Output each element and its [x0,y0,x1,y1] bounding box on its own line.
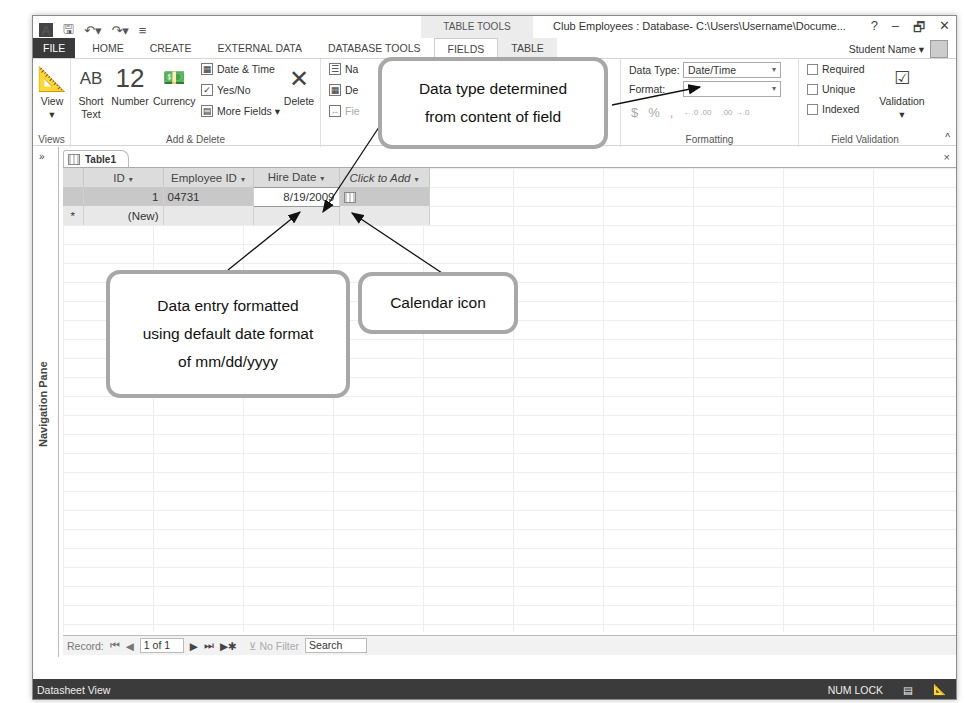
new-row-label[interactable]: (New) [83,206,163,225]
header-row: ID▾ Employee ID▾ Hire Date▾ Click to Add… [63,168,429,187]
more-fields-button[interactable]: ▤ More Fields ▾ [201,105,280,117]
name-caption-icon: ☰ [329,63,341,75]
column-header-employee-id[interactable]: Employee ID▾ [163,168,253,187]
chevron-down-icon[interactable]: ▾ [129,175,133,184]
close-document-icon[interactable]: × [944,151,950,163]
view-button[interactable]: 📐 View ▾ [37,63,67,121]
decrease-decimals-button[interactable]: .00 →.0 [721,108,749,117]
comma-format-button[interactable]: , [670,105,674,120]
more-fields-icon: ▤ [201,105,213,117]
datasheet-view-icon[interactable]: ▤ [903,684,913,696]
tab-external-data[interactable]: EXTERNAL DATA [205,38,315,58]
callout-data-type: Data type determined from content of fie… [378,57,608,149]
default-value-icon: ▦ [329,84,341,96]
new-record-row: * (New) [63,206,429,225]
new-record-button[interactable]: ▶✱ [220,640,237,652]
new-row-marker[interactable]: * [63,206,83,225]
tab-create[interactable]: CREATE [137,38,205,58]
tab-fields[interactable]: FIELDS [434,38,499,58]
redo-icon[interactable]: ↷▾ [111,23,128,38]
validation-button[interactable]: ☑ Validation ▾ [877,63,927,121]
calendar-icon[interactable] [344,192,356,203]
short-text-button[interactable]: AB Short Text [77,63,105,121]
filter-icon: ⊻ [249,640,257,652]
navigation-pane-label[interactable]: Navigation Pane [37,361,49,447]
window-controls: ? – 🗗 ✕ [871,18,950,40]
add-delete-group: AB Short Text 12 Number 💵 Currency ▦ Dat… [71,59,321,147]
tab-table1[interactable]: Table1 [63,150,129,167]
last-record-button[interactable]: ⏭ [204,639,214,652]
field-size-button[interactable]: ↔ Fie [329,105,360,117]
new-cell-click-to-add[interactable] [339,206,429,225]
required-checkbox[interactable]: Required [807,63,865,75]
previous-record-button[interactable]: ◀ [126,640,134,652]
next-record-button[interactable]: ▶ [190,640,198,652]
currency-format-button[interactable]: $ [631,105,638,120]
cell-hire-date[interactable]: 8/19/2009 [253,187,339,206]
tab-table[interactable]: TABLE [498,38,556,58]
default-value-button[interactable]: ▦ De [329,84,358,96]
new-cell-employee-id[interactable] [163,206,253,225]
help-icon[interactable]: ? [871,18,878,40]
column-header-click-to-add[interactable]: Click to Add▾ [339,168,429,187]
date-time-button[interactable]: ▦ Date & Time [201,63,275,75]
search-input[interactable]: Search [305,638,367,653]
table-icon [68,154,80,165]
increase-decimals-button[interactable]: ←.0 .00 [683,108,711,117]
first-record-button[interactable]: ⏮ [110,639,120,652]
indexed-checkbox[interactable]: Indexed [807,103,859,115]
views-group: 📐 View ▾ Views [33,59,71,147]
tab-file[interactable]: FILE [33,38,75,58]
cell-id[interactable]: 1 [83,187,163,206]
cell-click-to-add[interactable] [339,187,429,206]
chevron-down-icon[interactable]: ▾ [241,175,245,184]
column-header-hire-date[interactable]: Hire Date▾ [253,168,339,187]
current-record-input[interactable]: 1 of 1 [140,638,184,653]
number-button[interactable]: 12 Number [109,63,151,108]
access-logo-icon[interactable]: A [39,23,53,37]
design-view-icon[interactable]: 📐 [933,683,946,696]
minimize-icon[interactable]: – [892,18,899,40]
row-selector[interactable] [63,187,83,206]
tab-home[interactable]: HOME [79,38,137,58]
percent-format-button[interactable]: % [648,105,660,120]
delete-button[interactable]: ✕ Delete [281,63,317,108]
yes-no-button[interactable]: ✓ Yes/No [201,84,250,96]
chevron-down-icon[interactable]: ▾ [320,174,324,183]
close-icon[interactable]: ✕ [939,18,950,40]
restore-icon[interactable]: 🗗 [913,18,925,40]
customize-qat-icon[interactable]: ≡ [139,23,147,38]
validation-icon: ☑ [877,63,927,93]
name-caption-button[interactable]: ☰ Na [329,63,358,75]
callout-calendar-icon: Calendar icon [358,272,518,334]
user-name[interactable]: Student Name ▾ [849,43,924,55]
nav-pane-toggle-icon[interactable]: » [39,151,45,162]
no-filter-button[interactable]: ⊻ No Filter [249,640,299,652]
user-account[interactable]: Student Name ▾ [849,40,948,58]
avatar[interactable] [930,40,948,58]
column-header-id[interactable]: ID▾ [83,168,163,187]
field-size-icon: ↔ [329,105,341,117]
undo-icon[interactable]: ↶▾ [84,23,101,38]
tab-database-tools[interactable]: DATABASE TOOLS [315,38,434,58]
short-text-icon: AB [77,63,105,93]
status-right: NUM LOCK ▤ 📐 [828,683,946,696]
table-tools-context-label: TABLE TOOLS [421,16,533,38]
data-type-label: Data Type: [629,64,680,76]
collapse-ribbon-icon[interactable]: ^ [945,132,950,143]
cell-employee-id[interactable]: 04731 [163,187,253,206]
status-bar: Datasheet View NUM LOCK ▤ 📐 [33,679,956,700]
chevron-down-icon[interactable]: ▾ [414,175,418,184]
table-row: 1 04731 8/19/2009 [63,187,429,206]
select-all-cell[interactable] [63,168,83,187]
new-cell-hire-date[interactable] [253,206,339,225]
checkbox-icon: ✓ [201,84,213,96]
date-time-icon: ▦ [201,63,213,75]
unique-checkbox[interactable]: Unique [807,83,855,95]
number-icon: 12 [109,63,151,93]
data-type-dropdown[interactable]: Date/Time ▾ [683,62,781,78]
currency-button[interactable]: 💵 Currency [153,63,195,108]
format-dropdown[interactable]: ▾ [683,81,781,97]
navigation-pane: » Navigation Pane [33,147,59,657]
record-label: Record: [67,640,104,652]
